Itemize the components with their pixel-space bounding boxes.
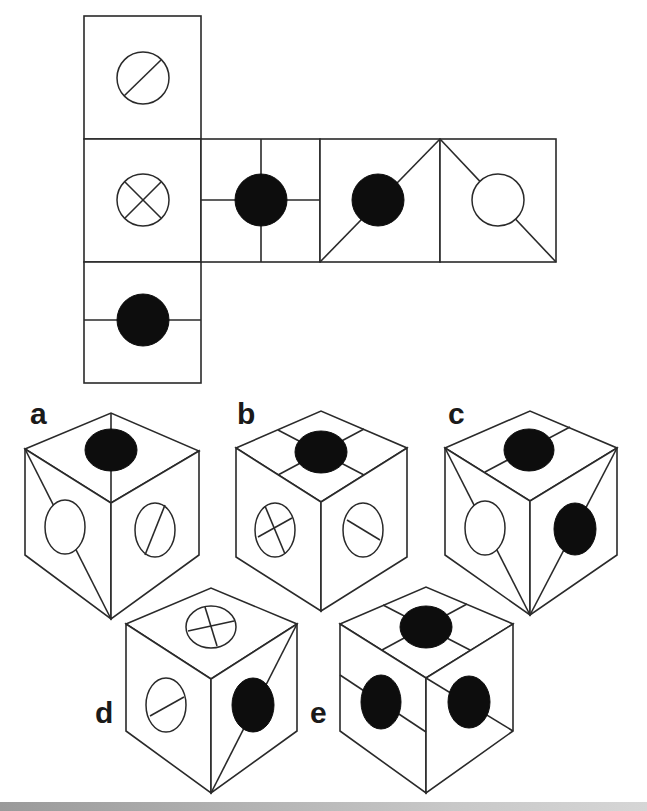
black-circle-icon — [117, 294, 169, 346]
option-label-c: c — [448, 397, 465, 430]
black-circle-icon — [85, 429, 137, 471]
black-circle-icon — [232, 678, 274, 732]
net-cell-bottom — [84, 262, 201, 383]
option-a[interactable]: a — [25, 397, 199, 619]
black-circle-icon — [504, 429, 554, 471]
black-circle-icon — [352, 174, 404, 226]
white-circle-icon — [465, 501, 505, 555]
black-circle-icon — [361, 675, 401, 729]
option-label-a: a — [30, 397, 47, 430]
black-circle-icon — [554, 503, 596, 555]
circle-line-icon — [146, 678, 186, 732]
option-e[interactable]: e — [310, 587, 513, 793]
option-label-e: e — [310, 696, 327, 729]
net-cell-middle-left — [84, 139, 201, 262]
white-circle-icon — [45, 500, 85, 554]
net-cell-top — [84, 16, 201, 139]
option-label-d: d — [95, 696, 113, 729]
cube-net — [84, 16, 556, 383]
black-circle-icon — [400, 606, 452, 648]
net-cell-middle-4 — [440, 139, 556, 262]
net-cell-middle-3 — [320, 139, 440, 262]
option-label-b: b — [237, 397, 255, 430]
cube-puzzle-diagram: a b c — [0, 0, 647, 811]
bottom-bar — [0, 802, 647, 811]
black-circle-icon — [295, 431, 347, 473]
white-circle-icon — [472, 174, 524, 226]
black-circle-icon — [448, 676, 490, 728]
option-b[interactable]: b — [236, 397, 407, 611]
option-c[interactable]: c — [445, 397, 617, 615]
net-cell-middle-2 — [201, 139, 320, 262]
option-d[interactable]: d — [95, 588, 297, 793]
black-circle-icon — [235, 174, 287, 226]
